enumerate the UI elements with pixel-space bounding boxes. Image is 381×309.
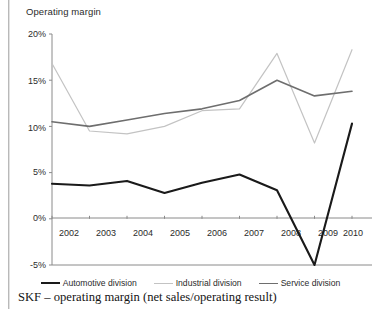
- operating-margin-line-chart: Operating margin 20% 15% 10% 5% 0% -5% 2…: [0, 0, 381, 275]
- legend-entry-automotive: Automotive division: [41, 278, 137, 288]
- legend-entry-service: Service division: [259, 278, 341, 288]
- figure-caption: SKF – operating margin (net sales/operat…: [18, 290, 277, 305]
- legend-label: Service division: [281, 278, 341, 288]
- legend-line-icon: [259, 283, 278, 284]
- series-line-automotive-division: [52, 124, 352, 265]
- legend-entry-industrial: Industrial division: [154, 278, 242, 288]
- legend-label: Automotive division: [63, 278, 137, 288]
- legend-line-icon: [154, 283, 173, 284]
- plot-area: [0, 0, 381, 275]
- legend-label: Industrial division: [176, 278, 242, 288]
- series-line-industrial-division: [52, 50, 352, 143]
- page-canvas: Operating margin 20% 15% 10% 5% 0% -5% 2…: [0, 0, 381, 309]
- legend-line-icon: [41, 282, 60, 284]
- chart-legend: Automotive division Industrial division …: [0, 275, 381, 291]
- series-line-service-division: [52, 80, 352, 126]
